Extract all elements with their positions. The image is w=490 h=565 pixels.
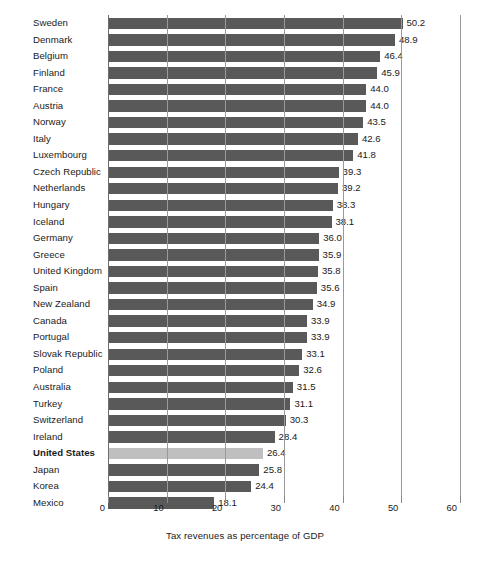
- x-tick: [108, 496, 109, 503]
- bar: [108, 315, 307, 326]
- bar-row: Sweden50.2: [0, 15, 490, 32]
- category-label: Sweden: [33, 15, 68, 32]
- x-tick: [401, 496, 402, 503]
- bar-value-label: 42.6: [362, 131, 381, 148]
- x-tick-label: 20: [212, 502, 225, 513]
- x-axis: 0102030405060: [0, 496, 490, 518]
- bar: [108, 382, 293, 393]
- category-label: Turkey: [33, 396, 62, 413]
- bar-row: Luxembourg41.8: [0, 147, 490, 164]
- bar-row: Belgium46.4: [0, 48, 490, 65]
- bar-value-label: 35.9: [323, 247, 342, 264]
- bar-row: Iceland38.1: [0, 214, 490, 231]
- category-label: Belgium: [33, 48, 68, 65]
- category-label: United States: [33, 445, 95, 462]
- x-tick: [460, 496, 461, 503]
- x-tick-label: 40: [329, 502, 342, 513]
- category-label: Switzerland: [33, 412, 83, 429]
- x-tick: [284, 496, 285, 503]
- category-label: Poland: [33, 362, 63, 379]
- category-label: Ireland: [33, 429, 63, 446]
- bar: [108, 51, 380, 62]
- bar-value-label: 24.4: [255, 478, 274, 495]
- bar-row: Turkey31.1: [0, 396, 490, 413]
- bar-row: Netherlands39.2: [0, 180, 490, 197]
- bar-row: Canada33.9: [0, 313, 490, 330]
- bar: [108, 448, 263, 459]
- category-label: New Zealand: [33, 296, 90, 313]
- bar-value-label: 46.4: [384, 48, 403, 65]
- category-label: Austria: [33, 98, 63, 115]
- bar-value-label: 34.9: [317, 296, 336, 313]
- bar-value-label: 39.2: [342, 180, 361, 197]
- bar-value-label: 33.1: [306, 346, 325, 363]
- bar-row: Italy42.6: [0, 131, 490, 148]
- bar: [108, 67, 377, 78]
- bar: [108, 100, 366, 111]
- bar-row: Denmark48.9: [0, 32, 490, 49]
- bar-value-label: 31.1: [294, 396, 313, 413]
- x-tick-label: 0: [100, 502, 108, 513]
- bar-value-label: 45.9: [381, 65, 400, 82]
- category-label: Canada: [33, 313, 67, 330]
- bar: [108, 167, 339, 178]
- bar-row: Japan25.8: [0, 462, 490, 479]
- bar-row: Switzerland30.3: [0, 412, 490, 429]
- bar-row: Korea24.4: [0, 478, 490, 495]
- category-label: Spain: [33, 280, 58, 297]
- category-label: Finland: [33, 65, 65, 82]
- category-label: United Kingdom: [33, 263, 102, 280]
- bar-row: Ireland28.4: [0, 429, 490, 446]
- bar: [108, 34, 395, 45]
- bar-value-label: 31.5: [297, 379, 316, 396]
- bar: [108, 349, 302, 360]
- category-label: Iceland: [33, 214, 64, 231]
- bar-row: New Zealand34.9: [0, 296, 490, 313]
- category-label: Korea: [33, 478, 59, 495]
- bar-value-label: 36.0: [323, 230, 342, 247]
- category-label: Germany: [33, 230, 73, 247]
- category-label: France: [33, 81, 63, 98]
- bar-row: Portugal33.9: [0, 329, 490, 346]
- bar-row: Norway43.5: [0, 114, 490, 131]
- bar: [108, 464, 259, 475]
- bar: [108, 133, 358, 144]
- category-label: Denmark: [33, 32, 72, 49]
- category-label: Japan: [33, 462, 59, 479]
- bar: [108, 365, 299, 376]
- bar: [108, 233, 319, 244]
- bar: [108, 398, 290, 409]
- bar-value-label: 26.4: [267, 445, 286, 462]
- bar: [108, 216, 332, 227]
- bar-value-label: 32.6: [303, 362, 322, 379]
- bar-row: Poland32.6: [0, 362, 490, 379]
- bar: [108, 200, 333, 211]
- bar-row: France44.0: [0, 81, 490, 98]
- bar: [108, 415, 286, 426]
- bar: [108, 117, 363, 128]
- bar-row: Czech Republic39.3: [0, 164, 490, 181]
- chart-plot-rows: Sweden50.2Denmark48.9Belgium46.4Finland4…: [0, 15, 490, 511]
- bar-row: Spain35.6: [0, 280, 490, 297]
- bar-value-label: 35.8: [322, 263, 341, 280]
- bar-row: Germany36.0: [0, 230, 490, 247]
- bar-row: Australia31.5: [0, 379, 490, 396]
- x-tick-label: 30: [271, 502, 284, 513]
- bar: [108, 332, 307, 343]
- x-tick-label: 60: [447, 502, 460, 513]
- bar: [108, 84, 366, 95]
- bar-row: Slovak Republic33.1: [0, 346, 490, 363]
- bar: [108, 299, 313, 310]
- bar-value-label: 35.6: [321, 280, 340, 297]
- category-label: Netherlands: [33, 180, 85, 197]
- bar-row: Greece35.9: [0, 247, 490, 264]
- category-label: Portugal: [33, 329, 69, 346]
- category-label: Czech Republic: [33, 164, 101, 181]
- bar-value-label: 39.3: [343, 164, 362, 181]
- bar-value-label: 25.8: [263, 462, 282, 479]
- bar-value-label: 30.3: [290, 412, 309, 429]
- category-label: Hungary: [33, 197, 70, 214]
- x-axis-title: Tax revenues as percentage of GDP: [0, 530, 490, 541]
- bar-row: United Kingdom35.8: [0, 263, 490, 280]
- bar-row: Hungary38.3: [0, 197, 490, 214]
